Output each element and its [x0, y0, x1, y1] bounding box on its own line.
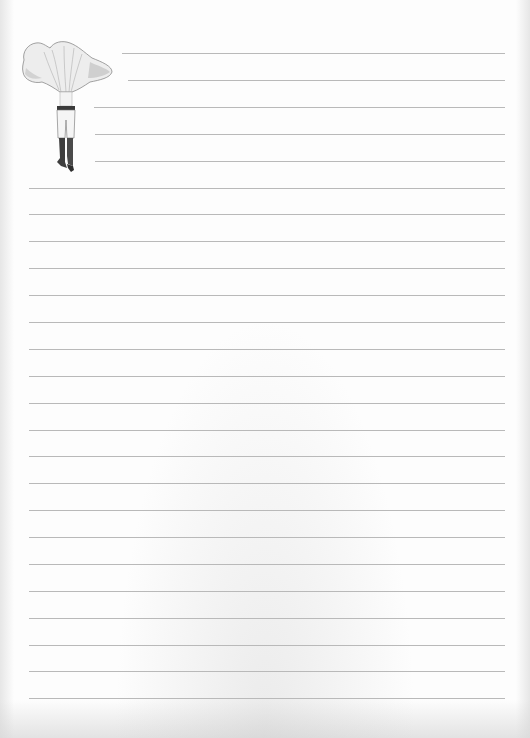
- ruled-line: [29, 214, 505, 215]
- ruled-line: [29, 322, 505, 323]
- ruled-line: [29, 510, 505, 511]
- ruled-line: [29, 698, 505, 699]
- ruled-line: [29, 295, 505, 296]
- ruled-line: [29, 618, 505, 619]
- ruled-line: [95, 134, 505, 135]
- ruled-line: [29, 268, 505, 269]
- ruled-line: [94, 107, 505, 108]
- ruled-line: [29, 349, 505, 350]
- ruled-line: [29, 456, 505, 457]
- ruled-line: [29, 564, 505, 565]
- ruled-line: [128, 80, 505, 81]
- ruled-line: [122, 53, 505, 54]
- ruled-line: [29, 241, 505, 242]
- notepaper-page: [0, 0, 530, 738]
- ruled-line: [95, 161, 505, 162]
- ruled-line: [29, 645, 505, 646]
- ruled-line: [29, 591, 505, 592]
- ruled-line: [29, 430, 505, 431]
- ruled-line: [29, 403, 505, 404]
- ruled-line: [29, 188, 505, 189]
- ruled-line: [29, 537, 505, 538]
- ruled-line: [29, 376, 505, 377]
- ruled-line: [29, 671, 505, 672]
- ruled-line: [29, 483, 505, 484]
